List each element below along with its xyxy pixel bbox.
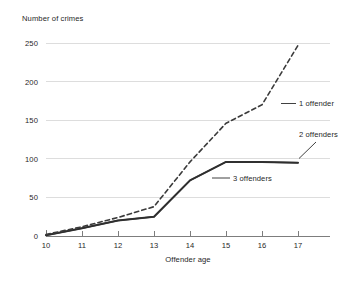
x-tick-label-11: 11 [78,241,86,250]
x-tick-label-14: 14 [186,241,195,250]
y-tick-label-250: 250 [25,39,38,48]
gridlines [46,43,330,197]
leader-line-2-offenders [299,142,316,159]
y-tick-label-50: 50 [29,193,38,202]
series-label-2-offenders: 2 offenders [299,130,338,139]
series-label-3-offenders: 3 offenders [233,174,272,183]
x-tick-label-16: 16 [258,241,267,250]
y-tick-label-0: 0 [34,232,38,241]
y-axis-tick-labels: 250 200 150 100 50 0 [25,39,38,241]
x-tick-label-12: 12 [114,241,123,250]
x-axis-tick-marks [46,231,298,237]
x-tick-label-15: 15 [222,241,231,250]
series-label-1-offender: 1 offender [299,99,334,108]
line-chart: Number of crimes 250 200 150 100 50 0 10… [0,0,356,281]
y-tick-label-100: 100 [25,155,38,164]
series-line-2-offenders [46,162,298,235]
series-group [46,45,298,235]
x-tick-label-17: 17 [294,241,303,250]
x-axis-tick-labels: 10 11 12 13 14 15 16 17 [42,241,303,250]
x-tick-label-10: 10 [42,241,51,250]
y-tick-label-150: 150 [25,116,38,125]
x-tick-label-13: 13 [150,241,159,250]
series-line-1-offender [46,45,298,234]
annotation-leaders [212,104,316,179]
y-tick-label-200: 200 [25,78,38,87]
x-axis-title: Offender age [165,255,210,264]
chart-container: Number of crimes 250 200 150 100 50 0 10… [0,0,356,281]
y-axis-title: Number of crimes [22,14,84,23]
